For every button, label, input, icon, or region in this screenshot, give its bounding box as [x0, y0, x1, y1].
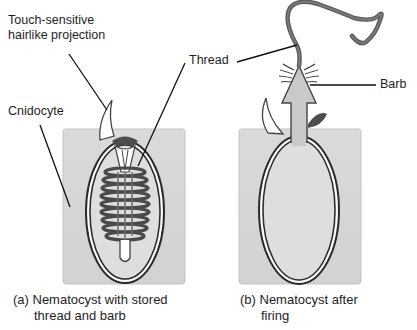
leader-thread-b — [237, 45, 297, 62]
caption-a-line1: (a) Nematocyst with stored — [13, 292, 168, 307]
caption-panel-b: (b) Nematocyst after firing — [240, 292, 358, 324]
label-touch-sensitive-line2: hairlike projection — [8, 28, 105, 42]
label-touch-sensitive-line1: Touch-sensitive — [8, 13, 94, 27]
label-thread: Thread — [189, 53, 229, 68]
leader-touch-sensitive — [69, 54, 107, 110]
caption-a-line2: thread and barb — [13, 308, 168, 324]
caption-panel-a: (a) Nematocyst with stored thread and ba… — [13, 292, 168, 324]
cnidocil-a — [100, 100, 114, 140]
label-touch-sensitive: Touch-sensitive hairlike projection — [8, 13, 105, 43]
discharged-thread — [288, 2, 382, 66]
panel-b-graphic — [239, 2, 382, 284]
label-barb: Barb — [380, 77, 406, 92]
nematocyst-diagram: Touch-sensitive hairlike projection Thre… — [0, 0, 417, 330]
panel-a-graphic — [63, 100, 185, 284]
tube-tail-a — [120, 240, 130, 262]
operculum-b — [308, 113, 327, 128]
caption-b-line2: firing — [240, 308, 358, 324]
caption-b-line1: (b) Nematocyst after — [240, 292, 358, 307]
label-cnidocyte: Cnidocyte — [8, 104, 64, 119]
capsule-wall-inner-b — [263, 140, 335, 280]
diagram-graphics — [0, 0, 417, 330]
